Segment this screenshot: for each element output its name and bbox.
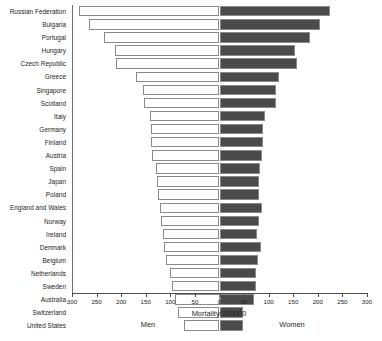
bar-row (72, 149, 367, 162)
bar-women (220, 19, 321, 29)
bar-row (72, 18, 367, 31)
bar-row (72, 84, 367, 97)
bar-men (166, 255, 219, 265)
bar-women (220, 176, 259, 186)
x-tick-label: 200 (116, 298, 126, 305)
bar-men (104, 32, 220, 42)
bar-rows (72, 5, 367, 332)
x-tick (220, 293, 221, 297)
category-label: Austria (0, 149, 69, 162)
bar-row (72, 254, 367, 267)
category-label: Czech Republic (0, 57, 69, 70)
bar-men (115, 45, 219, 55)
bar-row (72, 123, 367, 136)
bar-men (143, 85, 220, 95)
bar-men (151, 124, 219, 134)
bar-women (220, 229, 258, 239)
bar-women (220, 242, 261, 252)
bar-women (220, 163, 260, 173)
bar-row (72, 110, 367, 123)
category-label: Belgium (0, 254, 69, 267)
bar-row (72, 44, 367, 57)
bar-men (170, 268, 219, 278)
bar-women (220, 32, 311, 42)
bar-women (220, 255, 258, 265)
category-label: Norway (0, 215, 69, 228)
x-tick (244, 293, 245, 297)
bar-row (72, 5, 367, 18)
bar-row (72, 162, 367, 175)
bar-row (72, 267, 367, 280)
x-tick-label: 300 (67, 298, 77, 305)
x-axis-title: Mortality/100000 (192, 309, 247, 318)
mortality-pyramid-chart: Russian FederationBulgariaPortugalHungar… (0, 0, 382, 341)
category-label: Japan (0, 175, 69, 188)
bar-men (158, 189, 220, 199)
bar-women (220, 72, 280, 82)
bar-row (72, 241, 367, 254)
x-tick-label: 250 (91, 298, 101, 305)
category-label: Denmark (0, 241, 69, 254)
bar-men (79, 6, 220, 16)
bar-row (72, 136, 367, 149)
bar-men (163, 229, 220, 239)
x-tick (195, 293, 196, 297)
bar-men (156, 163, 220, 173)
x-tick-label: 300 (362, 298, 372, 305)
bar-row (72, 57, 367, 70)
x-tick-label: 100 (165, 298, 175, 305)
x-tick (269, 293, 270, 297)
bar-men (144, 98, 219, 108)
bar-women (220, 203, 263, 213)
category-label: Netherlands (0, 267, 69, 280)
bar-women (220, 111, 265, 121)
category-label: Poland (0, 188, 69, 201)
bar-men (184, 320, 219, 330)
category-label: Australia (0, 293, 69, 306)
bar-women (220, 6, 331, 16)
x-tick-label: 50 (191, 298, 198, 305)
bar-row (72, 70, 367, 83)
category-label: Ireland (0, 228, 69, 241)
x-tick-label: 150 (288, 298, 298, 305)
category-label: Russian Federation (0, 5, 69, 18)
category-label: Germany (0, 123, 69, 136)
bar-men (136, 72, 219, 82)
x-tick (97, 293, 98, 297)
group-label-men: Men (141, 320, 155, 329)
bar-men (151, 137, 219, 147)
plot-area (72, 5, 367, 293)
bar-row (72, 97, 367, 110)
bar-women (220, 320, 244, 330)
bar-row (72, 319, 367, 332)
bar-men (150, 111, 219, 121)
category-label: Bulgaria (0, 18, 69, 31)
bar-men (160, 203, 220, 213)
x-tick-label: 100 (263, 298, 273, 305)
bar-row (72, 215, 367, 228)
bar-women (220, 85, 276, 95)
bar-men (152, 150, 220, 160)
category-label: Switzerland (0, 306, 69, 319)
category-label: Hungary (0, 44, 69, 57)
category-axis-labels: Russian FederationBulgariaPortugalHungar… (0, 5, 69, 332)
bar-women (220, 268, 256, 278)
bar-row (72, 228, 367, 241)
category-label: Portugal (0, 31, 69, 44)
bar-row (72, 280, 367, 293)
x-tick-label: 250 (337, 298, 347, 305)
x-tick (293, 293, 294, 297)
bar-men (116, 58, 220, 68)
bar-men (161, 216, 219, 226)
x-tick (72, 293, 73, 297)
bar-women (220, 137, 263, 147)
category-label: Scotland (0, 97, 69, 110)
group-label-women: Women (279, 320, 304, 329)
bar-men (172, 281, 219, 291)
category-label: Finland (0, 136, 69, 149)
bar-women (220, 58, 297, 68)
x-tick-label: 50 (241, 298, 248, 305)
bar-row (72, 175, 367, 188)
bar-row (72, 188, 367, 201)
bar-women (220, 294, 254, 304)
